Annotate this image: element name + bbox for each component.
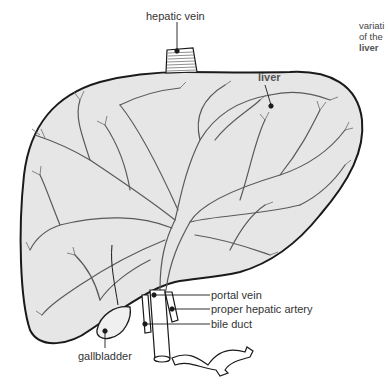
hepatic-vein-label: hepatic vein [146, 10, 205, 22]
side-caption-emphasis: liver [359, 42, 384, 53]
liver-label: liver [258, 71, 281, 83]
liver-diagram: hepatic vein liver portal vein proper he… [0, 0, 388, 384]
side-caption-line-2: of the [359, 31, 384, 42]
side-caption-line-1: variati [359, 20, 384, 31]
liver-illustration [0, 0, 388, 384]
gallbladder-label: gallbladder [78, 350, 132, 362]
side-caption: variati of the liver [359, 20, 384, 53]
proper-hepatic-artery-label: proper hepatic artery [211, 303, 313, 315]
hepatic-vein-graphic [166, 48, 197, 73]
portal-vein-label: portal vein [211, 289, 262, 301]
bile-duct-label: bile duct [211, 318, 252, 330]
